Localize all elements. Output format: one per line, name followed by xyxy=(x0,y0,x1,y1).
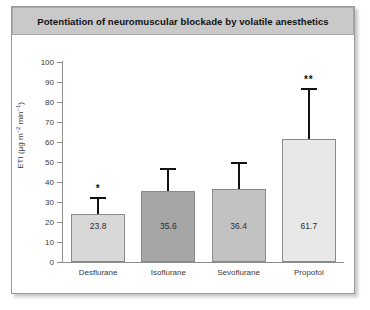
bar: 36.4 xyxy=(212,189,266,262)
y-axis-line xyxy=(62,61,63,263)
y-axis-tick-label: 30 xyxy=(14,198,54,207)
y-axis-tick-label: 100 xyxy=(14,58,54,67)
y-axis-title: ETI (µg m−2 min−1) xyxy=(15,75,26,195)
error-bar-cap xyxy=(231,162,247,164)
y-axis-tick xyxy=(57,122,62,123)
y-axis-tick xyxy=(57,82,62,83)
y-axis-tick xyxy=(57,222,62,223)
y-axis-tick-label: 0 xyxy=(14,258,54,267)
y-axis-tick xyxy=(57,202,62,203)
x-axis-category-label: Propofol xyxy=(264,268,354,277)
plot-area: 0102030405060708090100 ETI (µg m−2 min−1… xyxy=(0,0,370,310)
y-axis-tick-label: 10 xyxy=(14,238,54,247)
y-axis-tick xyxy=(57,242,62,243)
x-axis-line xyxy=(62,262,344,263)
figure-container: Potentiation of neuromuscular blockade b… xyxy=(0,0,370,310)
bar-value-label: 61.7 xyxy=(283,221,335,231)
error-bar-cap xyxy=(160,168,176,170)
y-axis-tick xyxy=(57,182,62,183)
y-axis-tick xyxy=(57,162,62,163)
y-axis-tick xyxy=(57,102,62,103)
bar: 61.7 xyxy=(282,139,336,262)
bar: 23.8 xyxy=(71,214,125,262)
bar-value-label: 36.4 xyxy=(213,221,265,231)
error-bar-stem xyxy=(97,197,99,214)
error-bar-cap xyxy=(301,88,317,90)
error-bar-cap xyxy=(90,197,106,199)
bar: 35.6 xyxy=(141,191,195,262)
error-bar-stem xyxy=(238,162,240,189)
error-bar-stem xyxy=(308,88,310,139)
y-axis-tick xyxy=(57,62,62,63)
error-bar-stem xyxy=(167,168,169,191)
bar-value-label: 23.8 xyxy=(72,221,124,231)
y-axis-tick xyxy=(57,142,62,143)
bar-value-label: 35.6 xyxy=(142,221,194,231)
significance-marker: * xyxy=(78,184,118,194)
y-axis-tick xyxy=(57,262,62,263)
y-axis-tick-label: 20 xyxy=(14,218,54,227)
significance-marker: ** xyxy=(289,75,329,85)
